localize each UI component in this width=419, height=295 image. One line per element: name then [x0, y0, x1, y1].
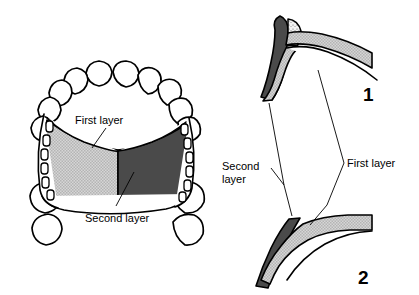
section-figure-2: 2 — [256, 215, 372, 288]
label-first-layer-section: First layer — [347, 157, 396, 169]
figure-number-2: 2 — [358, 267, 369, 288]
tooth-central-incisor-left — [86, 61, 112, 86]
sectional-views-panel: 1 2 Second layer First layer — [222, 16, 396, 288]
tooth-second-molar-left — [32, 214, 62, 245]
retention-clasp — [41, 149, 48, 160]
retention-clasp — [43, 135, 50, 146]
label-first-layer: First layer — [75, 114, 124, 126]
leader-line-second-layer-lower — [284, 185, 292, 216]
leader-line-second-layer-upper — [269, 103, 284, 185]
retention-clasp — [179, 192, 186, 202]
retention-clasp — [184, 138, 191, 149]
alveolar-ridge-border — [42, 194, 188, 214]
retention-clasp — [186, 152, 193, 163]
label-second-layer-line2: layer — [222, 173, 246, 185]
tooth-central-incisor-right — [113, 61, 139, 87]
retention-clasp — [186, 166, 193, 177]
retention-clasp — [47, 190, 54, 200]
retention-clasp — [41, 163, 48, 174]
retention-clasp — [42, 177, 49, 188]
tooth-second-molar-right — [173, 214, 203, 245]
retention-clasp — [181, 124, 188, 135]
dental-diagram-figure: First layer Second layer 1 — [0, 0, 419, 295]
leader-line-first-layer-upper — [318, 70, 344, 163]
label-second-layer: Second layer — [85, 212, 150, 224]
label-second-layer-line1: Second — [222, 160, 259, 172]
figure-number-1: 1 — [363, 84, 374, 105]
retention-clasp — [184, 180, 191, 191]
retention-clasp — [46, 121, 53, 132]
diagram-canvas: First layer Second layer 1 — [0, 0, 419, 295]
section-figure-1: 1 — [261, 16, 377, 105]
occlusal-view-panel: First layer Second layer — [30, 61, 204, 245]
